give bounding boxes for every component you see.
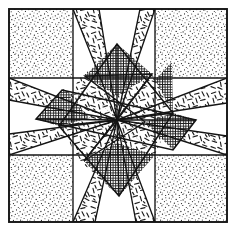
corner-top-left-patch xyxy=(9,9,73,78)
quilt-block-diagram xyxy=(0,0,234,236)
corner-bottom-right-patch xyxy=(155,155,227,222)
block-interior xyxy=(9,9,227,222)
corner-bottom-left-patch xyxy=(9,155,73,222)
quilt-block-figure xyxy=(0,0,234,236)
